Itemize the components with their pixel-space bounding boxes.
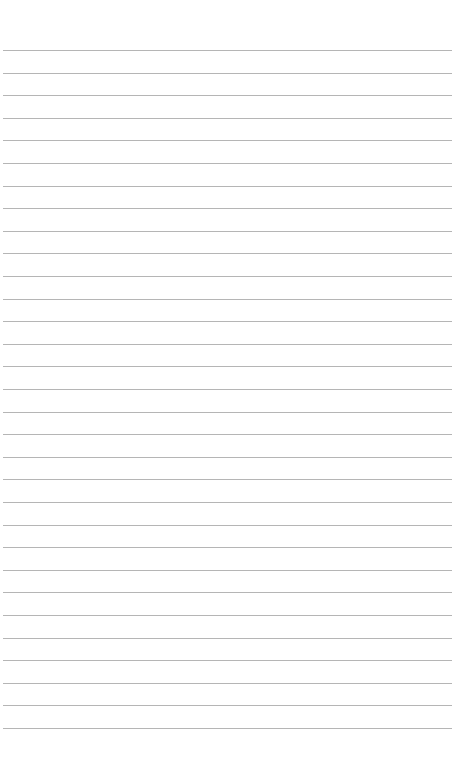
ruled-line: [3, 683, 452, 684]
ruled-line: [3, 299, 452, 300]
ruled-line: [3, 389, 452, 390]
ruled-line: [3, 253, 452, 254]
ruled-line: [3, 95, 452, 96]
lined-paper-page: [0, 0, 456, 780]
ruled-line: [3, 140, 452, 141]
ruled-line: [3, 615, 452, 616]
ruled-line: [3, 592, 452, 593]
ruled-line: [3, 479, 452, 480]
ruled-line: [3, 547, 452, 548]
ruled-line: [3, 728, 452, 729]
ruled-line: [3, 660, 452, 661]
ruled-line: [3, 412, 452, 413]
ruled-line: [3, 231, 452, 232]
ruled-line: [3, 366, 452, 367]
ruled-line: [3, 457, 452, 458]
ruled-line: [3, 163, 452, 164]
ruled-line: [3, 208, 452, 209]
ruled-line: [3, 344, 452, 345]
ruled-line: [3, 705, 452, 706]
ruled-line: [3, 638, 452, 639]
ruled-line: [3, 73, 452, 74]
ruled-line: [3, 50, 452, 51]
ruled-line: [3, 321, 452, 322]
ruled-line: [3, 525, 452, 526]
ruled-line: [3, 276, 452, 277]
ruled-line: [3, 502, 452, 503]
ruled-line: [3, 186, 452, 187]
ruled-line: [3, 434, 452, 435]
ruled-line: [3, 570, 452, 571]
ruled-line: [3, 118, 452, 119]
